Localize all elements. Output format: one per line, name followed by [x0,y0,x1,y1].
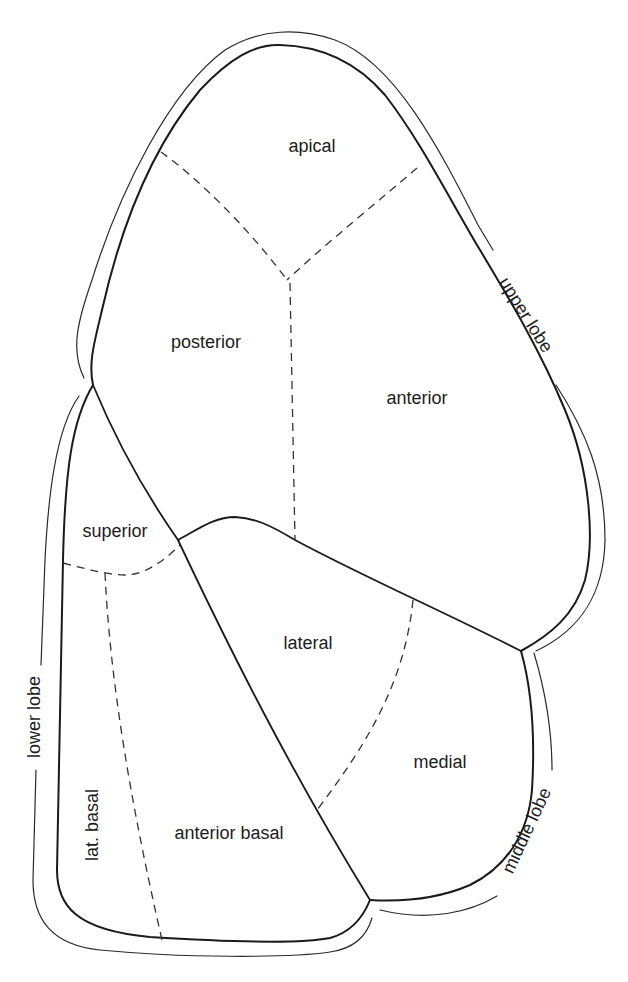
middle-lobe-bracket-line-lower [380,896,497,915]
lateral-medial-boundary [317,600,413,810]
middle-lobe-bracket-line-upper [534,653,552,770]
lobe-label-lower: lower lobe [24,676,44,758]
lung-segments-diagram: apical posterior anterior superior later… [0,0,628,982]
superior-basal-boundary [63,545,180,575]
lat-basal-anterior-basal-boundary [105,573,162,940]
segment-label-lateral: lateral [283,633,332,653]
lobe-label-upper: upper lobe [495,273,557,356]
lower-lobe-outline [57,385,370,942]
upper-lobe-bracket-line [77,32,493,378]
segment-label-anterior: anterior [386,388,447,408]
segment-label-superior: superior [82,521,147,541]
posterior-anterior-boundary [290,283,295,540]
segment-label-apical: apical [288,136,335,156]
apical-anterior-boundary [287,168,417,280]
lobe-label-middle: middle lobe [498,785,555,877]
segment-label-lat-basal: lat. basal [82,789,102,861]
segment-label-posterior: posterior [171,332,241,352]
segment-label-medial: medial [413,752,466,772]
upper-lobe-outline [91,45,590,651]
horizontal-fissure [178,517,521,651]
apical-posterior-boundary [161,152,287,280]
segment-label-anterior-basal: anterior basal [174,823,283,843]
